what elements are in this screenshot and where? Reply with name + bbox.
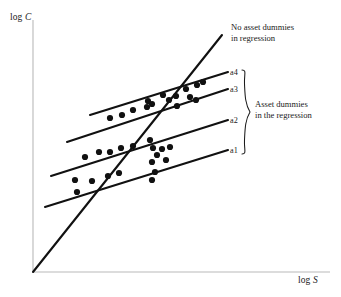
scatter-point <box>107 115 113 121</box>
scatter-point <box>166 97 172 103</box>
line-tag-a4: a4 <box>230 68 238 77</box>
line-tag-a2: a2 <box>230 116 238 125</box>
scatter-point <box>187 94 193 100</box>
scatter-point <box>200 79 206 85</box>
x-axis-label-prefix: log <box>298 275 313 285</box>
scatter-point <box>149 101 155 107</box>
scatter-point <box>147 137 153 143</box>
scatter-point <box>82 154 88 160</box>
scatter-point <box>130 143 136 149</box>
scatter-point <box>149 159 155 165</box>
scatter-point <box>105 173 111 179</box>
line-tag-a3: a3 <box>230 85 238 94</box>
scatter-point <box>154 152 160 158</box>
scatter-point <box>149 177 155 183</box>
x-axis-label: log S <box>298 276 318 286</box>
scatter-point <box>119 112 125 118</box>
scatter-point <box>96 149 102 155</box>
annotation-asset-dummies: Asset dummies in the regression <box>255 99 312 121</box>
scatter-point <box>150 145 156 151</box>
scatter-point <box>89 178 95 184</box>
scatter-point <box>107 149 113 155</box>
annotation-asset-dummies-line2: in the regression <box>255 110 312 121</box>
scatter-point <box>194 82 200 88</box>
scatter-point <box>167 144 173 150</box>
annotation-no-asset-dummies-line1: No asset dummies <box>231 22 294 33</box>
scatter-point <box>174 103 180 109</box>
scatter-point <box>173 93 179 99</box>
scatter-point <box>116 170 122 176</box>
scatter-point <box>163 157 169 163</box>
figure-root: log C log S No asset dummies in regressi… <box>0 0 341 297</box>
line-tag-a1: a1 <box>230 146 238 155</box>
plot-canvas <box>0 0 341 297</box>
scatter-point <box>183 86 189 92</box>
scatter-point <box>159 146 165 152</box>
y-axis-label-prefix: log <box>10 12 25 22</box>
scatter-point <box>152 169 158 175</box>
annotation-no-asset-dummies-line2: in regression <box>231 33 294 44</box>
scatter-point <box>118 145 124 151</box>
x-axis-label-variable: S <box>313 275 318 285</box>
y-axis-label-variable: C <box>25 12 31 22</box>
annotation-no-asset-dummies: No asset dummies in regression <box>231 22 294 44</box>
y-axis-label: log C <box>10 13 31 23</box>
scatter-point <box>72 177 78 183</box>
annotation-asset-dummies-line1: Asset dummies <box>255 99 312 110</box>
scatter-point <box>130 107 136 113</box>
scatter-point <box>160 92 166 98</box>
scatter-point <box>193 97 199 103</box>
scatter-point <box>74 189 80 195</box>
